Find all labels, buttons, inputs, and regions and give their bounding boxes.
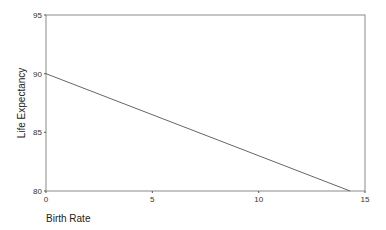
y-tick-label: 90 xyxy=(33,70,42,79)
y-tick-label: 80 xyxy=(33,187,42,196)
plot-frame xyxy=(46,15,365,191)
y-tick-label: 95 xyxy=(33,11,42,20)
x-tick-label: 15 xyxy=(361,195,370,204)
chart-svg: 80 85 90 95 0 5 10 15 Birth Rate Life Ex… xyxy=(0,0,386,230)
x-tick-label: 10 xyxy=(254,195,263,204)
y-axis-label: Life Expectancy xyxy=(16,68,27,139)
x-axis-label: Birth Rate xyxy=(46,213,91,224)
x-tick-label: 5 xyxy=(150,195,155,204)
y-tick-label: 85 xyxy=(33,128,42,137)
x-axis: 0 5 10 15 xyxy=(44,191,370,204)
y-axis: 80 85 90 95 xyxy=(33,11,46,196)
x-tick-label: 0 xyxy=(44,195,49,204)
regression-line xyxy=(46,74,350,191)
